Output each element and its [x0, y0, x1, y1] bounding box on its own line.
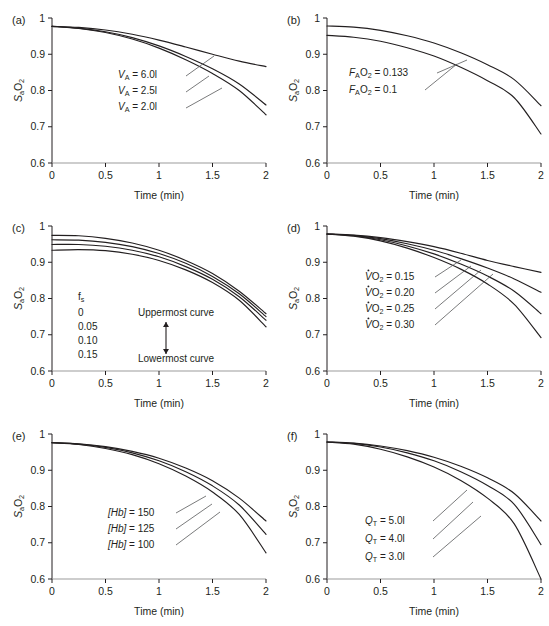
curve-annotation-label: QT = 5.0l — [365, 515, 405, 528]
y-axis-tick-label: 0.7 — [30, 120, 45, 132]
y-axis-tick-label: 1 — [39, 220, 45, 232]
x-axis-tick-label: 2 — [538, 169, 544, 181]
x-axis-tick-label: 2 — [538, 377, 544, 389]
chart-panel-e: (e)0.60.70.80.9100.511.52Time (min)SaO2[… — [0, 416, 274, 624]
annotation-leader-line — [437, 60, 467, 73]
curve-annotation-label: VA = 2.0l — [118, 101, 157, 114]
data-curve — [327, 442, 541, 521]
x-axis-tick-label: 0 — [324, 377, 330, 389]
y-axis-tick-label: 0.7 — [305, 328, 320, 340]
y-axis-tick-label: 0.9 — [305, 256, 320, 268]
y-axis-tick-label: 0.7 — [30, 536, 45, 548]
lowermost-curve-note: Lowermost curve — [138, 353, 215, 364]
x-axis-tick-label: 1.5 — [480, 585, 495, 597]
annotation-leader-line — [435, 274, 493, 325]
x-axis-tick-label: 0.5 — [373, 585, 388, 597]
data-curve — [52, 26, 266, 105]
x-axis-tick-label: 1.5 — [205, 169, 220, 181]
annotation-leader-line — [425, 64, 457, 90]
curve-annotation-label: [Hb] = 100 — [107, 539, 155, 550]
y-axis-tick-label: 0.6 — [30, 365, 45, 377]
x-axis-tick-label: 1 — [156, 169, 162, 181]
panel-letter: (f) — [287, 430, 297, 442]
y-axis-tick-label: 0.6 — [30, 573, 45, 585]
v-dot-icon — [367, 317, 369, 319]
curve-annotation-label: FAO2 = 0.133 — [349, 67, 409, 80]
legend-value: 0.15 — [78, 349, 98, 360]
data-curve — [327, 234, 541, 338]
curve-annotation-label: VO2 = 0.30 — [365, 319, 415, 332]
y-axis-title: SaO2 — [12, 79, 26, 102]
curve-annotation-label: VA = 6.0l — [118, 69, 157, 82]
data-curve — [52, 443, 266, 553]
x-axis-tick-label: 0.5 — [373, 169, 388, 181]
x-axis-tick-label: 1.5 — [480, 169, 495, 181]
y-axis-tick-label: 0.6 — [305, 365, 320, 377]
chart-panel-d: (d)0.60.70.80.9100.511.52Time (min)SaO2V… — [275, 208, 549, 416]
x-axis-title: Time (min) — [409, 397, 459, 409]
x-axis-tick-label: 2 — [538, 585, 544, 597]
y-axis-tick-label: 0.8 — [30, 84, 45, 96]
annotation-leader-line — [435, 260, 461, 277]
x-axis-title: Time (min) — [134, 397, 184, 409]
arrow-head-up — [163, 322, 169, 327]
y-axis-tick-label: 0.7 — [305, 536, 320, 548]
y-axis-tick-label: 1 — [314, 220, 320, 232]
y-axis-tick-label: 0.9 — [30, 464, 45, 476]
annotation-leader-line — [433, 490, 467, 521]
x-axis-tick-label: 2 — [263, 377, 269, 389]
y-axis-tick-label: 0.6 — [305, 573, 320, 585]
panel-letter: (c) — [12, 222, 25, 234]
y-axis-tick-label: 0.8 — [305, 292, 320, 304]
x-axis-title: Time (min) — [409, 605, 459, 617]
x-axis-tick-label: 1.5 — [480, 377, 495, 389]
x-axis-tick-label: 0 — [49, 377, 55, 389]
y-axis-tick-label: 0.8 — [305, 84, 320, 96]
y-axis-tick-label: 0.9 — [30, 256, 45, 268]
x-axis-tick-label: 0 — [49, 169, 55, 181]
x-axis-title: Time (min) — [134, 605, 184, 617]
panel-letter: (e) — [12, 430, 25, 442]
data-curve — [52, 240, 266, 317]
data-curve — [327, 442, 541, 579]
legend-value: 0.10 — [78, 335, 98, 346]
curve-annotation-label: FAO2 = 0.1 — [349, 84, 397, 97]
y-axis-tick-label: 0.8 — [30, 292, 45, 304]
curve-annotation-label: QT = 3.0l — [365, 551, 405, 564]
annotation-leader-line — [186, 76, 209, 92]
y-axis-tick-label: 0.6 — [305, 157, 320, 169]
annotation-leader-line — [176, 504, 212, 529]
x-axis-tick-label: 1 — [431, 585, 437, 597]
y-axis-title: SaO2 — [287, 79, 301, 102]
curve-annotation-label: [Hb] = 150 — [107, 507, 155, 518]
figure-six-panel-oxygen-saturation: (a)0.60.70.80.9100.511.52Time (min)SaO2V… — [0, 0, 549, 626]
v-dot-icon — [367, 269, 369, 271]
y-axis-tick-label: 0.9 — [30, 48, 45, 60]
y-axis-tick-label: 1 — [39, 428, 45, 440]
curve-annotation-label: QT = 4.0l — [365, 533, 405, 546]
x-axis-tick-label: 2 — [263, 169, 269, 181]
annotation-leader-line — [176, 512, 220, 545]
x-axis-tick-label: 1 — [156, 377, 162, 389]
annotation-leader-line — [433, 516, 481, 557]
y-axis-title: SaO2 — [12, 287, 26, 310]
x-axis-tick-label: 0.5 — [98, 169, 113, 181]
legend-value: 0.05 — [78, 321, 98, 332]
annotation-leader-line — [435, 266, 471, 293]
chart-panel-c: (c)0.60.70.80.9100.511.52Time (min)SaO2f… — [0, 208, 274, 416]
panel-letter: (a) — [12, 14, 25, 26]
y-axis-title: SaO2 — [12, 495, 26, 518]
curve-annotation-label: VO2 = 0.25 — [365, 303, 415, 316]
y-axis-tick-label: 1 — [314, 12, 320, 24]
chart-panel-a: (a)0.60.70.80.9100.511.52Time (min)SaO2V… — [0, 0, 274, 208]
curve-annotation-label: [Hb] = 125 — [107, 523, 155, 534]
x-axis-tick-label: 0 — [324, 169, 330, 181]
data-curve — [52, 443, 266, 535]
x-axis-tick-label: 0 — [49, 585, 55, 597]
panel-letter: (b) — [287, 14, 300, 26]
legend-value: 0 — [78, 307, 84, 318]
panel-letter: (d) — [287, 222, 300, 234]
x-axis-title: Time (min) — [134, 189, 184, 201]
v-dot-icon — [367, 285, 369, 287]
chart-panel-f: (f)0.60.70.80.9100.511.52Time (min)SaO2Q… — [275, 416, 549, 624]
